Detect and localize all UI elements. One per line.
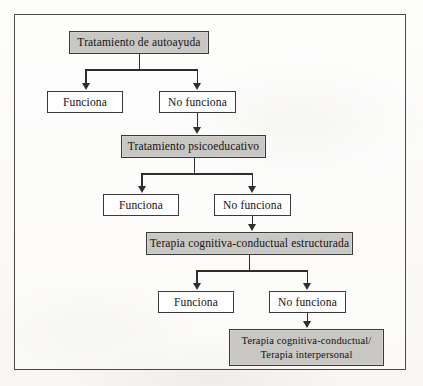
- node-treatment-selfhelp-label: Tratamiento de autoayuda: [77, 36, 200, 49]
- arrowhead-fails1-to-psychoeducational: [193, 127, 201, 134]
- node-outcome-selfhelp-works-label: Funciona: [63, 96, 107, 109]
- connector-fails1-to-psychoeducational: [197, 113, 199, 128]
- node-outcome-structured-cbt-fails-label: No funciona: [278, 296, 337, 309]
- arrowhead-selfhelp-to-fails: [193, 83, 201, 90]
- node-outcome-psychoeducational-fails-label: No funciona: [223, 199, 282, 212]
- node-outcome-psychoeducational-fails: No funciona: [214, 194, 291, 216]
- connector-structured-cbt-bar: [196, 270, 307, 272]
- arrowhead-fails3-to-cbt-ipt: [303, 321, 311, 328]
- connector-psychoeducational-to-fails: [252, 173, 254, 187]
- node-outcome-psychoeducational-works-label: Funciona: [119, 199, 163, 212]
- node-treatment-cbt-ipt: Terapia cognitiva-conductual/ Terapia in…: [229, 329, 384, 366]
- node-treatment-structured-cbt-label: Terapia cognitiva-conductual estructurad…: [150, 237, 349, 250]
- connector-selfhelp-to-works: [85, 69, 87, 84]
- arrowhead-selfhelp-to-works: [82, 83, 90, 90]
- node-treatment-cbt-ipt-line1: Terapia cognitiva-conductual/: [242, 334, 372, 347]
- connector-selfhelp-bar: [85, 69, 197, 71]
- connector-psychoeducational-bar: [141, 173, 252, 175]
- connector-structured-cbt-to-fails: [307, 270, 309, 284]
- figure-frame: Tratamiento de autoayuda Funciona No fun…: [14, 14, 406, 370]
- arrowhead-psychoeducational-to-fails: [248, 186, 256, 193]
- node-outcome-psychoeducational-works: Funciona: [103, 194, 179, 216]
- node-treatment-selfhelp: Tratamiento de autoayuda: [69, 31, 209, 54]
- node-treatment-psychoeducational-label: Tratamiento psicoeducativo: [128, 140, 260, 153]
- node-treatment-structured-cbt: Terapia cognitiva-conductual estructurad…: [146, 232, 353, 255]
- connector-structured-cbt-to-works: [196, 270, 198, 284]
- node-outcome-selfhelp-fails: No funciona: [159, 91, 236, 113]
- node-outcome-structured-cbt-works: Funciona: [158, 291, 234, 313]
- arrowhead-structured-cbt-to-works: [193, 283, 201, 290]
- connector-psychoeducational-stem: [194, 158, 196, 173]
- node-treatment-psychoeducational: Tratamiento psicoeducativo: [121, 135, 266, 158]
- node-outcome-selfhelp-fails-label: No funciona: [168, 96, 227, 109]
- arrowhead-structured-cbt-to-fails: [303, 283, 311, 290]
- node-outcome-structured-cbt-fails: No funciona: [269, 291, 346, 313]
- arrowhead-psychoeducational-to-works: [138, 186, 146, 193]
- node-outcome-structured-cbt-works-label: Funciona: [174, 296, 218, 309]
- node-outcome-selfhelp-works: Funciona: [47, 91, 123, 113]
- arrowhead-fails2-to-cbt: [248, 224, 256, 231]
- connector-selfhelp-to-fails: [197, 69, 199, 84]
- connector-selfhelp-stem: [139, 54, 141, 69]
- connector-psychoeducational-to-works: [141, 173, 143, 187]
- connector-structured-cbt-stem: [249, 255, 251, 270]
- node-treatment-cbt-ipt-line2: Terapia interpersonal: [261, 348, 353, 361]
